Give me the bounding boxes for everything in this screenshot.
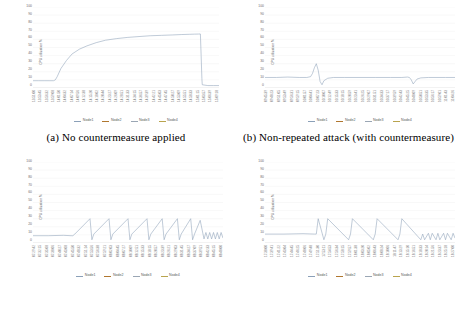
x-tick-label: 14:15:20 <box>90 90 93 102</box>
legend-item[interactable]: Node2 <box>336 274 355 278</box>
y-tick-label: 0 <box>30 239 32 242</box>
y-tick-label: 40 <box>260 207 264 210</box>
y-tick-label: 70 <box>260 29 264 32</box>
y-tick-label: 100 <box>26 5 32 8</box>
legend-swatch-icon <box>159 121 166 122</box>
legend-item[interactable]: Node1 <box>74 119 93 123</box>
x-tick-label: 07:32:15 <box>39 245 42 257</box>
x-tick-label: 10:18:15 <box>342 90 345 102</box>
x-tick-label: 15:01:15 <box>197 90 200 102</box>
x-tick-label: 08:48:00 <box>220 245 223 257</box>
y-tick-label: 80 <box>260 21 264 24</box>
x-tick-label: 18:16:51 <box>413 245 416 257</box>
y-axis-ticks: 1009080706050403020100 <box>251 161 264 243</box>
legend-item[interactable]: Node2 <box>102 119 121 123</box>
legend-label: Node2 <box>113 274 124 278</box>
x-tick-label: 07:59:21 <box>104 245 107 257</box>
plot-svg <box>33 162 223 243</box>
legend-item[interactable]: Node4 <box>393 274 412 278</box>
x-tick-label: 08:20:57 <box>155 245 158 257</box>
x-tick-label: 15:09:18 <box>216 90 219 102</box>
plot-svg <box>265 7 455 88</box>
x-tick-label: 10:37:17 <box>387 90 390 102</box>
x-tick-label: 10:01:57 <box>304 90 307 102</box>
legend-swatch-icon <box>393 121 400 122</box>
x-tick-label: 13:53:45 <box>39 90 42 102</box>
legend-label: Node4 <box>401 119 412 123</box>
y-tick-label: 40 <box>28 52 32 55</box>
x-tick-label: 18:13:29 <box>400 245 403 257</box>
y-tick-label: 10 <box>28 231 32 234</box>
caption-c <box>0 285 232 310</box>
x-tick-label: 18:11:47 <box>394 245 397 257</box>
y-tick-label: 40 <box>28 207 32 210</box>
x-tick-label: 10:23:41 <box>355 90 358 102</box>
x-tick-label: 17:46:25 <box>297 245 300 257</box>
legend-item[interactable]: Node3 <box>133 274 152 278</box>
x-tick-label: 17:51:30 <box>317 245 320 257</box>
legend-item[interactable]: Node3 <box>365 119 384 123</box>
x-tick-label: 18:05:02 <box>368 245 371 257</box>
legend-item[interactable]: Node1 <box>308 119 327 123</box>
legend-swatch-icon <box>104 276 111 277</box>
x-tick-label: 17:53:11 <box>323 245 326 257</box>
x-tick-label: 10:10:07 <box>323 90 326 102</box>
x-tick-label: 08:39:51 <box>200 245 203 257</box>
x-tick-label: 17:59:57 <box>349 245 352 257</box>
legend-item[interactable]: Node1 <box>76 274 95 278</box>
figure-grid: CPU utilization % 1009080706050403020100… <box>0 0 465 310</box>
x-tick-label: 08:34:27 <box>188 245 191 257</box>
legend-swatch-icon <box>133 276 140 277</box>
x-tick-label: 18:23:37 <box>439 245 442 257</box>
legend-swatch-icon <box>74 121 81 122</box>
legend-b: Node1Node2Node3Node4 <box>265 117 455 125</box>
y-tick-label: 30 <box>28 60 32 63</box>
y-tick-label: 60 <box>260 191 264 194</box>
x-tick-label: 08:26:21 <box>168 245 171 257</box>
legend-item[interactable]: Node3 <box>131 119 150 123</box>
x-axis-ticks-c: 07:29:4207:32:1507:35:0807:38:0607:40:27… <box>33 245 223 272</box>
y-tick-label: 20 <box>260 68 264 71</box>
caption-b: (b) Non-repeated attack (with countermea… <box>232 130 465 155</box>
x-tick-label: 14:31:33 <box>127 90 130 102</box>
plot-area-a <box>33 7 219 88</box>
x-tick-label: 07:56:38 <box>97 245 100 257</box>
legend-item[interactable]: Node2 <box>336 119 355 123</box>
legend-item[interactable]: Node4 <box>159 119 178 123</box>
legend-item[interactable]: Node4 <box>161 274 180 278</box>
plot-area-b <box>265 7 455 88</box>
legend-label: Node2 <box>345 119 356 123</box>
y-tick-label: 50 <box>28 44 32 47</box>
chart-panel-c: CPU utilization % 1009080706050403020100… <box>0 155 232 285</box>
x-tick-label: 14:28:51 <box>121 90 124 102</box>
y-tick-label: 30 <box>260 60 264 63</box>
chart-panel-a: CPU utilization % 1009080706050403020100… <box>0 0 232 130</box>
x-tick-label: 07:38:06 <box>52 245 55 257</box>
plot-svg <box>33 7 219 88</box>
legend-item[interactable]: Node3 <box>365 274 384 278</box>
y-tick-label: 10 <box>260 76 264 79</box>
legend-swatch-icon <box>336 121 343 122</box>
x-tick-label: 17:58:15 <box>342 245 345 257</box>
plot-area-c <box>33 162 223 243</box>
x-axis-ticks-d: 17:38:0017:39:4117:41:2217:43:0417:44:45… <box>265 245 455 272</box>
y-tick-label: 60 <box>260 36 264 39</box>
legend-label: Node3 <box>141 274 152 278</box>
legend-label: Node2 <box>111 119 122 123</box>
x-tick-label: 18:25:18 <box>445 245 448 257</box>
y-tick-label: 80 <box>28 21 32 24</box>
y-tick-label: 100 <box>258 160 264 163</box>
chart-panel-d: CPU utilization % 1009080706050403020100… <box>232 155 465 285</box>
x-tick-label: 18:18:33 <box>420 245 423 257</box>
x-tick-label: 07:40:27 <box>59 245 62 257</box>
y-tick-label: 50 <box>260 44 264 47</box>
y-tick-label: 90 <box>260 168 264 171</box>
x-tick-label: 08:15:33 <box>142 245 145 257</box>
x-tick-label: 15:03:57 <box>203 90 206 102</box>
legend-item[interactable]: Node1 <box>308 274 327 278</box>
y-axis-ticks: 1009080706050403020100 <box>251 6 264 88</box>
legend-item[interactable]: Node4 <box>393 119 412 123</box>
x-tick-label: 10:53:35 <box>426 90 429 102</box>
legend-item[interactable]: Node2 <box>104 274 123 278</box>
caption-a: (a) No countermeasure applied <box>0 130 232 155</box>
